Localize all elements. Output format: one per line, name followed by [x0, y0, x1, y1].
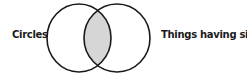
label-things-having-sides: Things having sides	[161, 29, 247, 40]
label-circles: Circles	[12, 29, 48, 40]
